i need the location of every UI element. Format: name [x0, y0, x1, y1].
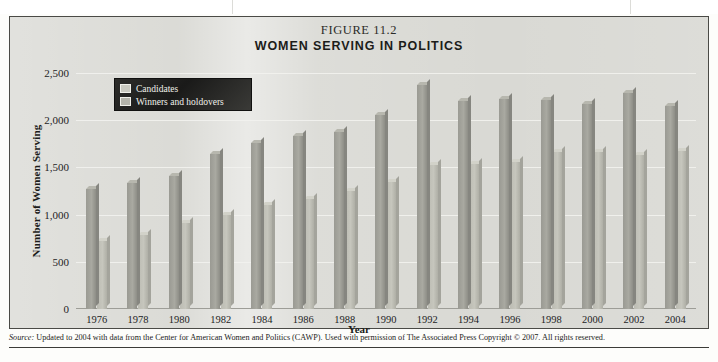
y-axis-tick-label: 0: [64, 303, 70, 315]
legend-item-candidates: Candidates: [120, 82, 246, 95]
figure-page: FIGURE 11.2 WOMEN SERVING IN POLITICS Nu…: [0, 0, 718, 362]
bar-group: 2004: [655, 73, 696, 309]
bar-group: 2002: [613, 73, 654, 309]
figure-title: WOMEN SERVING IN POLITICS: [10, 39, 708, 53]
source-body: Updated to 2004 with data from the Cente…: [34, 333, 605, 342]
bar-candidates: [582, 104, 592, 309]
legend-item-winners: Winners and holdovers: [120, 95, 246, 108]
bar-group: 1988: [324, 73, 365, 309]
figure-number: FIGURE 11.2: [10, 23, 708, 38]
bar-candidates: [210, 154, 220, 309]
scan-mark: [232, 0, 233, 14]
y-axis-tick-label: 500: [53, 256, 70, 268]
bar-group: 1986: [283, 73, 324, 309]
bar-candidates: [417, 85, 427, 309]
legend-swatch-icon: [120, 97, 131, 106]
y-axis-tick-label: 2,000: [44, 114, 69, 126]
bar-candidates: [251, 143, 261, 309]
bar-group: 1996: [489, 73, 530, 309]
y-axis-tick-label: 2,500: [44, 67, 69, 79]
bar-candidates: [541, 100, 551, 309]
bar-candidates: [334, 132, 344, 309]
y-axis-title-text: Number of Women Serving: [30, 125, 42, 258]
bar-group: 2000: [572, 73, 613, 309]
y-axis-tick-label: 1,000: [44, 209, 69, 221]
bar-candidates: [458, 101, 468, 309]
source-caption: Source: Updated to 2004 with data from t…: [9, 333, 709, 343]
bar-group: 1990: [365, 73, 406, 309]
y-axis-tick-label: 1,500: [44, 161, 69, 173]
bar-candidates: [86, 189, 96, 309]
bar-candidates: [375, 115, 385, 309]
legend-label-candidates: Candidates: [136, 84, 178, 94]
bar-candidates: [169, 176, 179, 309]
bar-group: 1992: [407, 73, 448, 309]
scan-artifact-strip: [0, 0, 718, 14]
bar-candidates: [499, 99, 509, 309]
chart-legend: Candidates Winners and holdovers: [114, 78, 252, 111]
legend-label-winners: Winners and holdovers: [136, 97, 224, 107]
bottom-rule: [9, 347, 709, 348]
bar-group: 1994: [448, 73, 489, 309]
legend-swatch-icon: [120, 84, 131, 93]
bar-candidates: [293, 136, 303, 309]
y-axis-title: Number of Women Serving: [28, 73, 44, 309]
bar-group: 1976: [76, 73, 117, 309]
bar-candidates: [127, 183, 137, 309]
bar-candidates: [665, 106, 675, 309]
bar-group: 1998: [531, 73, 572, 309]
scan-mark: [630, 0, 631, 14]
bar-candidates: [623, 93, 633, 309]
source-prefix: Source:: [9, 333, 34, 342]
figure-container: FIGURE 11.2 WOMEN SERVING IN POLITICS Nu…: [9, 16, 709, 329]
